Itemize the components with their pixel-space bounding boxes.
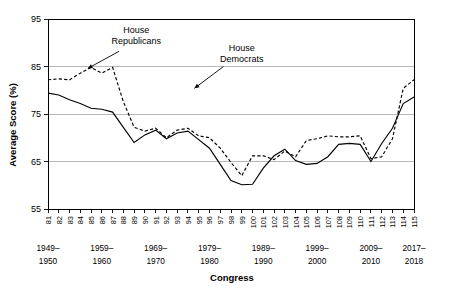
x-tick-label-102: 102 xyxy=(270,216,279,228)
series-annotations: HouseRepublicansHouseDemocrats xyxy=(88,25,264,88)
x-tick-label-113: 113 xyxy=(388,216,397,228)
series-label-house-republicans-line1: Republicans xyxy=(112,36,162,46)
x-tick-label-93: 93 xyxy=(173,216,182,224)
series-line-house-democrats xyxy=(48,93,414,185)
x-tick-label-89: 89 xyxy=(130,216,139,224)
series-label-house-democrats-line0: House xyxy=(229,43,255,53)
x-tick-label-110: 110 xyxy=(356,216,365,228)
x-tick-label-83: 83 xyxy=(66,216,75,224)
chart-container: 5565758595 81828384858687888990919293949… xyxy=(0,0,450,288)
x-tick-label-103: 103 xyxy=(281,216,290,228)
x-tick-label-87: 87 xyxy=(109,216,118,224)
decade-label-top-1970: 1969– xyxy=(144,243,167,253)
decade-label-bottom-1990: 1990 xyxy=(254,256,273,266)
y-axis-title: Average Score (%) xyxy=(7,83,18,167)
decade-label-bottom-2000: 2000 xyxy=(308,256,327,266)
x-axis-ticks: 8182838485868788899091929394959697989910… xyxy=(44,209,419,228)
y-axis-ticks: 5565758595 xyxy=(31,14,48,214)
decade-label-bottom-1970: 1970 xyxy=(146,256,165,266)
x-tick-label-85: 85 xyxy=(87,216,96,224)
series-label-house-republicans-leader xyxy=(88,51,119,68)
decade-label-bottom-2010: 2010 xyxy=(362,256,381,266)
decade-label-bottom-1950: 1950 xyxy=(39,256,58,266)
y-tick-label-65: 65 xyxy=(31,157,41,167)
series-lines xyxy=(48,67,414,184)
x-tick-label-94: 94 xyxy=(184,216,193,224)
x-tick-label-104: 104 xyxy=(292,216,301,228)
x-tick-label-97: 97 xyxy=(216,216,225,224)
decade-label-top-2018: 2017– xyxy=(402,243,425,253)
x-tick-label-101: 101 xyxy=(259,216,268,228)
decade-label-top-1980: 1979– xyxy=(198,243,221,253)
x-tick-label-112: 112 xyxy=(378,216,387,228)
line-chart: 5565758595 81828384858687888990919293949… xyxy=(0,0,450,288)
decade-label-bottom-1960: 1960 xyxy=(93,256,112,266)
x-tick-label-90: 90 xyxy=(141,216,150,224)
series-line-house-republicans xyxy=(48,67,414,175)
x-tick-label-109: 109 xyxy=(345,216,354,228)
x-axis-title: Congress xyxy=(210,272,254,283)
decade-labels: 1949–19501959–19601969–19701979–19801989… xyxy=(36,243,425,266)
x-tick-label-86: 86 xyxy=(98,216,107,224)
x-tick-label-111: 111 xyxy=(367,216,376,227)
x-tick-label-115: 115 xyxy=(410,216,419,228)
decade-label-top-1960: 1959– xyxy=(90,243,113,253)
series-label-house-democrats-leader xyxy=(194,67,223,89)
x-tick-label-114: 114 xyxy=(399,216,408,228)
x-tick-label-96: 96 xyxy=(205,216,214,224)
decade-label-top-2000: 1999– xyxy=(306,243,329,253)
x-tick-label-92: 92 xyxy=(162,216,171,224)
decade-label-bottom-1980: 1980 xyxy=(200,256,219,266)
x-tick-label-84: 84 xyxy=(76,216,85,224)
x-tick-label-108: 108 xyxy=(335,216,344,228)
y-tick-label-85: 85 xyxy=(31,62,41,72)
decade-label-top-1950: 1949– xyxy=(36,243,59,253)
x-tick-label-105: 105 xyxy=(302,216,311,228)
decade-label-top-1990: 1989– xyxy=(252,243,275,253)
x-tick-label-88: 88 xyxy=(119,216,128,224)
series-label-house-democrats-arrowhead xyxy=(194,84,199,89)
x-tick-label-107: 107 xyxy=(324,216,333,228)
decade-label-bottom-2018: 2018 xyxy=(405,256,424,266)
x-tick-label-91: 91 xyxy=(152,216,161,224)
x-tick-label-99: 99 xyxy=(238,216,247,224)
x-tick-label-106: 106 xyxy=(313,216,322,228)
x-tick-label-98: 98 xyxy=(227,216,236,224)
y-tick-label-55: 55 xyxy=(31,204,41,214)
x-tick-label-95: 95 xyxy=(195,216,204,224)
x-tick-label-81: 81 xyxy=(44,216,53,224)
decade-label-top-2010: 2009– xyxy=(359,243,382,253)
series-label-house-democrats-line1: Democrats xyxy=(220,54,264,64)
y-tick-label-95: 95 xyxy=(31,14,41,24)
series-label-house-republicans-line0: House xyxy=(123,25,149,35)
x-tick-label-82: 82 xyxy=(55,216,64,224)
x-tick-label-100: 100 xyxy=(249,216,258,228)
y-tick-label-75: 75 xyxy=(31,109,41,119)
grid-lines xyxy=(48,19,414,162)
